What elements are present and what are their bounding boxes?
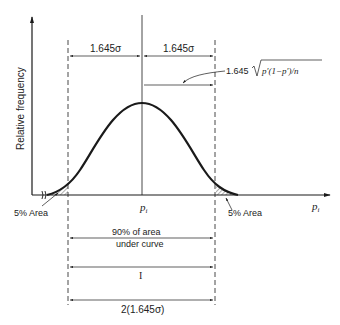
x-axis <box>32 191 330 199</box>
width-dimension-label: 2(1.645σ) <box>121 304 164 315</box>
left-tail-label: 5% Area <box>14 208 48 218</box>
svg-text:1.645: 1.645 <box>226 66 249 76</box>
top-left-dimension-label: 1.645σ <box>90 43 122 54</box>
formula-leader <box>183 71 225 83</box>
formula-label: 1.645 p′(1−p′)/n <box>226 60 322 76</box>
normal-curve <box>47 103 238 195</box>
svg-text:p′(1−p′)/n: p′(1−p′)/n <box>261 66 299 76</box>
center-label: pi <box>139 201 148 215</box>
right-tail-label: 5% Area <box>228 208 262 218</box>
diagram-canvas: Relative frequency pi pi 1.645σ 1.645σ 1… <box>0 0 340 325</box>
y-axis-label: Relative frequency <box>15 67 26 150</box>
x-axis-label: pi <box>311 200 320 214</box>
area-dimension-line1: 90% of area <box>112 227 161 237</box>
interval-dimension-label: I <box>139 270 142 281</box>
area-dimension-line2: under curve <box>116 239 164 249</box>
top-right-dimension-label: 1.645σ <box>163 43 195 54</box>
